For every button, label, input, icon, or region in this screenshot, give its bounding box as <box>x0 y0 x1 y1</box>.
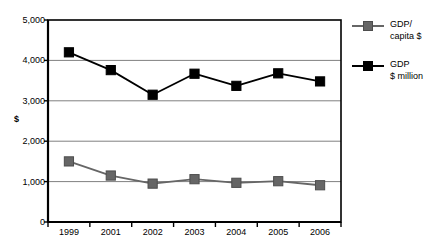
x-tick-label: 2002 <box>143 228 163 237</box>
data-point-marker <box>315 181 324 190</box>
x-tick-label: 2004 <box>226 228 246 237</box>
legend-marker-square-icon <box>352 20 384 31</box>
x-tick-label: 2003 <box>184 228 204 237</box>
data-point-marker <box>315 77 324 86</box>
x-tick-label: 2006 <box>310 228 330 237</box>
data-point-marker <box>274 177 283 186</box>
data-point-marker <box>64 48 73 57</box>
legend-label-gdp-capita: GDP/ capita $ <box>384 19 422 42</box>
data-point-marker <box>232 178 241 187</box>
x-tick-label: 2001 <box>101 228 121 237</box>
data-point-marker <box>274 69 283 78</box>
legend-item-gdp-million[interactable]: GDP $ million <box>352 59 423 82</box>
data-point-marker <box>106 171 115 180</box>
data-point-marker <box>190 69 199 78</box>
legend-label-gdp-million: GDP $ million <box>384 59 423 82</box>
plot-frame <box>48 20 341 222</box>
data-point-marker <box>190 175 199 184</box>
data-point-marker <box>106 66 115 75</box>
legend-item-gdp-capita[interactable]: GDP/ capita $ <box>352 19 422 42</box>
legend-marker-square-icon <box>352 60 384 71</box>
data-point-marker <box>64 157 73 166</box>
data-point-marker <box>148 90 157 99</box>
data-point-marker <box>148 179 157 188</box>
x-tick-label: 2005 <box>268 228 288 237</box>
x-tick-label: 1999 <box>59 228 79 237</box>
data-point-marker <box>232 81 241 90</box>
gdp-line-chart: $ 01,0002,0003,0004,0005,000 19992001200… <box>0 0 430 245</box>
